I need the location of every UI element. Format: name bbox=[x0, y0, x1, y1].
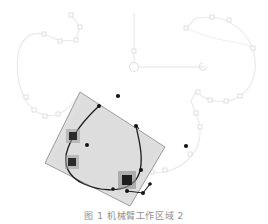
square-marker bbox=[66, 129, 80, 143]
faint-left-path bbox=[17, 15, 80, 116]
isolated-dot bbox=[116, 94, 120, 98]
faint-right-path-upper bbox=[186, 17, 255, 102]
figure-canvas bbox=[0, 0, 268, 224]
faint-left-path-group bbox=[17, 13, 82, 118]
figure-caption: 图 1 机械臂工作区域 2 bbox=[0, 211, 268, 222]
isolated-dot bbox=[184, 144, 188, 148]
vertical-guide-node bbox=[132, 49, 136, 53]
square-marker bbox=[65, 155, 79, 169]
origin-marker-icon bbox=[130, 63, 139, 72]
faint-right-path-tail bbox=[186, 28, 256, 50]
isolated-dot bbox=[85, 143, 89, 147]
origin-crosshair-group bbox=[130, 13, 207, 72]
square-marker bbox=[118, 171, 136, 189]
highlight-quadrilateral-inner bbox=[50, 96, 160, 200]
figure-container: 图 1 机械臂工作区域 2 bbox=[0, 0, 268, 224]
faint-right-nodes bbox=[150, 15, 255, 174]
